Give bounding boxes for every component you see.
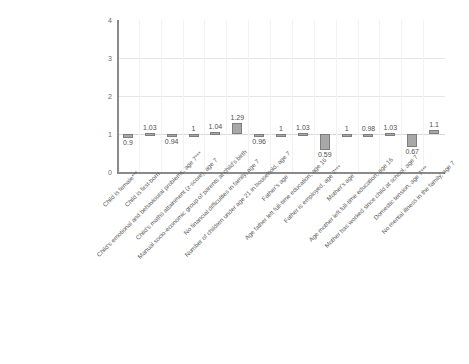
gridline-x-6 [248,20,249,172]
gridline-x-1 [139,20,140,172]
gridline-y-2 [119,96,445,97]
bar[interactable] [254,134,264,137]
gridline-x-5 [226,20,227,172]
gridline-x-10 [336,20,337,172]
chart-figure: 01234 0.91.030.9411.041.290.9611.030.591… [0,0,469,364]
y-tick-label-2: 2 [108,93,112,100]
gridline-x-2 [161,20,162,172]
gridline-x-7 [270,20,271,172]
bar-value-label: 1.03 [290,124,316,132]
bar[interactable] [385,133,395,136]
y-tick-label-0: 0 [108,169,112,176]
bar[interactable] [429,130,439,134]
bar-value-label: 1.03 [377,124,403,132]
y-tick-label-1: 1 [108,131,112,138]
bar[interactable] [276,134,286,137]
x-axis-label: Child is female*** [101,170,140,209]
bar[interactable] [167,134,177,137]
y-tick-label-3: 3 [108,55,112,62]
bar-value-label: 1.03 [137,124,163,132]
bar-value-label: 0.96 [246,138,272,146]
gridline-x-12 [379,20,380,172]
gridline-y-3 [119,58,445,59]
gridline-x-3 [183,20,184,172]
plot-area: 01234 0.91.030.9411.041.290.9611.030.591… [117,20,445,172]
bar[interactable] [363,134,373,137]
gridline-x-9 [314,20,315,172]
bar[interactable] [320,134,330,150]
bar-value-label: 1.1 [421,121,447,129]
y-tick-label-4: 4 [108,17,112,24]
bar[interactable] [145,133,155,136]
bar[interactable] [232,123,242,134]
bar-value-label: 1.04 [202,123,228,131]
bar[interactable] [407,134,417,147]
bar[interactable] [123,134,133,138]
gridline-x-8 [292,20,293,172]
gridline-x-4 [204,20,205,172]
bar-value-label: 0.94 [159,138,185,146]
gridline-x-11 [358,20,359,172]
bar[interactable] [298,133,308,136]
bar-value-label: 1.29 [224,114,250,122]
bar[interactable] [189,134,199,137]
bar-value-label: 0.9 [115,139,141,147]
bar[interactable] [210,132,220,135]
bar[interactable] [342,134,352,137]
